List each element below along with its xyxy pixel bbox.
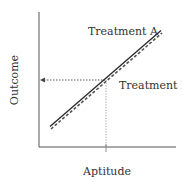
aptitude-treatment-diagram: Treatment A Treatment B Aptitude Outcome <box>0 0 182 182</box>
x-axis-label: Aptitude <box>82 165 131 178</box>
y-axis-label: Outcome <box>8 55 21 105</box>
treatment-a-label: Treatment A <box>88 25 159 38</box>
arrow-left-icon <box>40 78 45 83</box>
treatment-b-label: Treatment B <box>119 79 182 92</box>
